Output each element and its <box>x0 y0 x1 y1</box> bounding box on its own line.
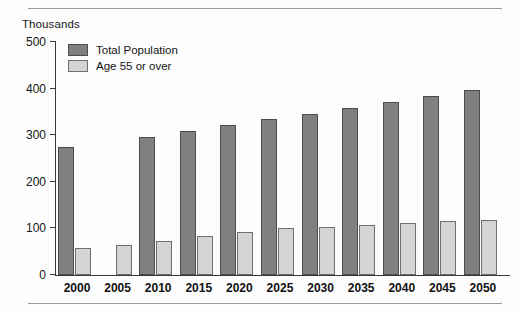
y-axis-tick-label: 500 <box>26 35 46 49</box>
x-axis-tick-label: 2020 <box>220 281 258 295</box>
x-axis-tick-label: 2040 <box>383 281 421 295</box>
legend-label: Age 55 or over <box>96 60 171 72</box>
top-divider-rule <box>28 8 502 9</box>
bar-senior <box>319 227 335 275</box>
legend-swatch-total <box>68 44 88 56</box>
bar-total <box>464 90 480 275</box>
legend-swatch-senior <box>68 60 88 72</box>
plot-area: 0100200300400500 20002005201020152020202… <box>56 42 504 275</box>
x-axis-tick-label: 2030 <box>302 281 340 295</box>
y-axis-tick-label: 0 <box>39 268 46 282</box>
bar-total <box>383 102 399 275</box>
bar-senior <box>116 245 132 275</box>
x-axis-tick-label: 2005 <box>99 281 137 295</box>
population-projection-chart: Thousands 0100200300400500 2000200520102… <box>0 0 518 313</box>
bar-group: 2040 <box>383 42 421 275</box>
legend-entry: Age 55 or over <box>68 60 178 72</box>
x-axis-line <box>55 275 510 276</box>
bottom-divider-rule <box>28 303 502 304</box>
bar-group: 2015 <box>180 42 218 275</box>
y-axis-tick-label: 400 <box>26 82 46 96</box>
bar-total <box>302 114 318 275</box>
x-axis-tick-label: 2035 <box>342 281 380 295</box>
y-axis-tick-label: 200 <box>26 175 46 189</box>
bar-group: 2035 <box>342 42 380 275</box>
y-axis-tick-label: 100 <box>26 221 46 235</box>
bar-senior <box>278 228 294 275</box>
x-axis-tick-label: 2000 <box>58 281 96 295</box>
x-axis-tick-label: 2050 <box>464 281 502 295</box>
y-axis-units-caption: Thousands <box>22 18 80 30</box>
bar-groups: 2000200520102015202020252030203520402045… <box>56 42 504 275</box>
chart-legend: Total PopulationAge 55 or over <box>68 44 178 72</box>
bar-group: 2050 <box>464 42 502 275</box>
bar-total <box>423 96 439 275</box>
bar-group: 2005 <box>99 42 137 275</box>
bar-total <box>180 131 196 275</box>
bar-group: 2025 <box>261 42 299 275</box>
bar-total <box>139 137 155 275</box>
bar-group: 2010 <box>139 42 177 275</box>
legend-label: Total Population <box>96 44 178 56</box>
bar-total <box>261 119 277 275</box>
bar-group: 2020 <box>220 42 258 275</box>
bar-total <box>58 147 74 275</box>
y-axis-tick-label: 300 <box>26 128 46 142</box>
bar-senior <box>197 236 213 275</box>
bar-total <box>342 108 358 275</box>
x-axis-tick-label: 2010 <box>139 281 177 295</box>
x-axis-tick-label: 2025 <box>261 281 299 295</box>
bar-group: 2030 <box>302 42 340 275</box>
bar-senior <box>156 241 172 275</box>
legend-entry: Total Population <box>68 44 178 56</box>
bar-senior <box>400 223 416 275</box>
bar-total <box>220 125 236 275</box>
bar-group: 2000 <box>58 42 96 275</box>
x-axis-tick-label: 2045 <box>423 281 461 295</box>
bar-senior <box>481 220 497 275</box>
bar-senior <box>359 225 375 275</box>
bar-senior <box>75 248 91 275</box>
bar-group: 2045 <box>423 42 461 275</box>
bar-senior <box>440 221 456 275</box>
bar-senior <box>237 232 253 275</box>
x-axis-tick-label: 2015 <box>180 281 218 295</box>
